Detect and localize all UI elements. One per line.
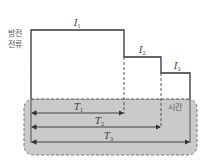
current-label-i1: I1 <box>73 18 81 29</box>
x-axis-label: 시간 <box>168 102 183 112</box>
y-axis-label-line1: 방전 <box>8 28 22 38</box>
current-label-i2: I2 <box>138 45 146 56</box>
current-label-i3: I3 <box>173 61 181 72</box>
current-step-outline <box>31 30 190 99</box>
discharge-current-diagram: 방전 전류 시간 I1 I2 I3 T1 T2 T3 <box>0 0 218 168</box>
y-axis-label-line2: 전류 <box>8 39 22 49</box>
